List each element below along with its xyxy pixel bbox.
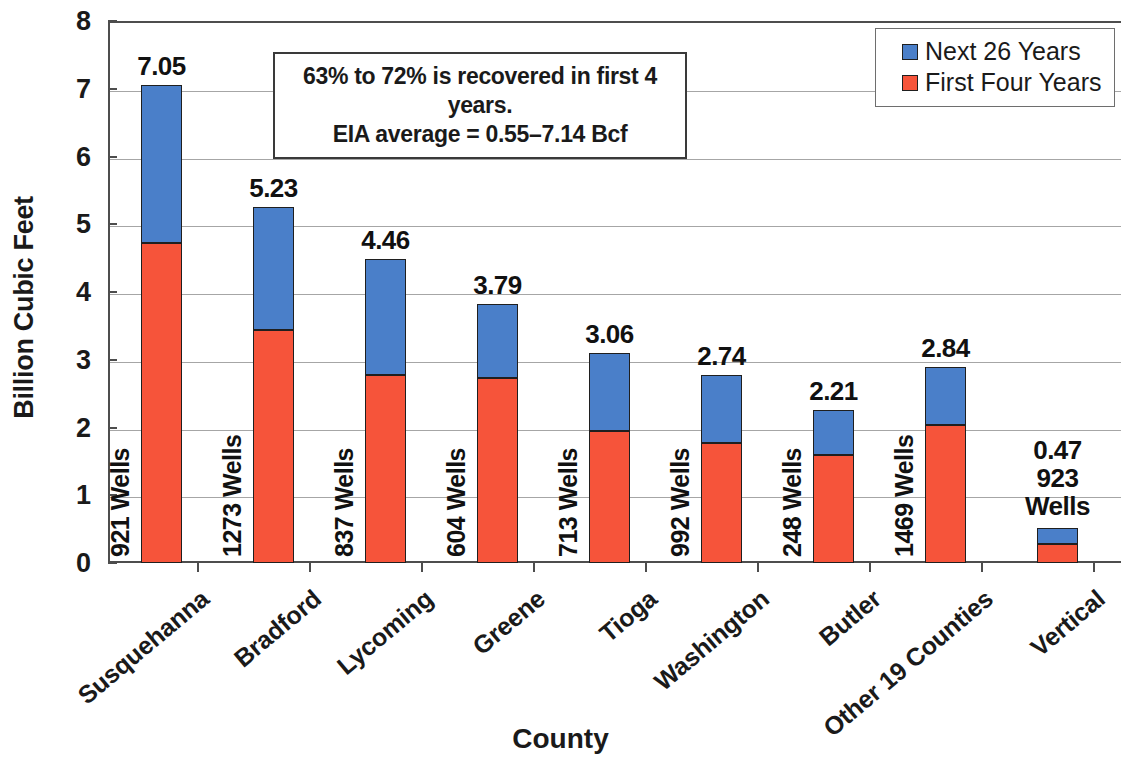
bar-total-value: 2.84 — [876, 335, 1016, 361]
bar-susquehanna[interactable] — [141, 85, 182, 563]
x-axis-title: County — [0, 723, 1121, 755]
y-axis-tick-mark — [108, 291, 117, 293]
bar-bradford[interactable] — [253, 207, 294, 563]
bar-value-label: 7.05 — [92, 53, 232, 79]
bar-well-count-line-1: 923 — [988, 464, 1121, 492]
legend-item-next-26-years: Next 26 Years — [876, 36, 1114, 67]
x-axis-tick-mark — [533, 563, 535, 572]
y-axis-tick-label: 1 — [31, 482, 91, 509]
x-axis-tick-mark — [981, 563, 983, 572]
bar-segment-next-26-years[interactable] — [253, 207, 294, 330]
bar-segment-first-four-years[interactable] — [589, 431, 630, 563]
bar-total-value: 5.23 — [204, 175, 344, 201]
x-axis-tick-mark — [1093, 563, 1095, 572]
bar-value-label: 4.46 — [316, 227, 456, 253]
bar-lycoming[interactable] — [365, 259, 406, 563]
bar-segment-first-four-years[interactable] — [253, 330, 294, 563]
bar-segment-first-four-years[interactable] — [477, 378, 518, 563]
bar-tioga[interactable] — [589, 353, 630, 563]
bar-value-label: 3.79 — [428, 272, 568, 298]
bar-segment-next-26-years[interactable] — [141, 85, 182, 243]
bar-value-label: 0.47923Wells — [988, 436, 1121, 520]
bar-segment-next-26-years[interactable] — [813, 410, 854, 455]
bar-segment-first-four-years[interactable] — [141, 243, 182, 563]
y-axis-tick-label: 5 — [31, 211, 91, 238]
bar-value-label: 2.84 — [876, 335, 1016, 361]
x-axis-tick-mark — [197, 563, 199, 572]
bar-butler[interactable] — [813, 410, 854, 563]
bar-total-value: 4.46 — [316, 227, 456, 253]
bar-total-value: 2.21 — [764, 378, 904, 404]
y-axis-tick-label: 2 — [31, 414, 91, 441]
bar-vertical[interactable] — [1037, 528, 1078, 563]
annotation-box: 63% to 72% is recovered in first 4 years… — [273, 52, 687, 159]
bar-value-label: 5.23 — [204, 175, 344, 201]
bar-segment-next-26-years[interactable] — [365, 259, 406, 374]
bar-segment-next-26-years[interactable] — [589, 353, 630, 431]
y-axis-tick-label: 7 — [31, 75, 91, 102]
x-axis-tick-mark — [421, 563, 423, 572]
bar-segment-first-four-years[interactable] — [925, 425, 966, 563]
x-axis-tick-mark — [309, 563, 311, 572]
bar-value-label: 2.74 — [652, 343, 792, 369]
y-axis-tick-mark — [108, 427, 117, 429]
bar-value-label: 2.21 — [764, 378, 904, 404]
y-axis-tick-mark — [108, 562, 117, 564]
bar-total-value: 0.47 — [988, 436, 1121, 464]
y-axis-tick-mark — [108, 88, 117, 90]
legend-label-next-26-years: Next 26 Years — [925, 39, 1081, 64]
bar-total-value: 3.79 — [428, 272, 568, 298]
y-axis-tick-label: 3 — [31, 346, 91, 373]
bar-segment-first-four-years[interactable] — [365, 375, 406, 563]
legend-swatch-next-26-years — [902, 44, 918, 60]
x-axis-tick-mark — [869, 563, 871, 572]
y-axis-tick-mark — [108, 494, 117, 496]
y-axis-tick-label: 8 — [31, 8, 91, 35]
bar-greene[interactable] — [477, 304, 518, 563]
legend-label-first-four-years: First Four Years — [925, 70, 1101, 95]
y-axis-tick-label: 6 — [31, 143, 91, 170]
y-axis-tick-label: 0 — [31, 550, 91, 577]
bar-well-count-line-2: Wells — [988, 492, 1121, 520]
y-axis-tick-mark — [108, 359, 117, 361]
annotation-line-1: 63% to 72% is recovered in first 4 years… — [281, 62, 679, 120]
y-axis-tick-mark — [108, 223, 117, 225]
y-axis-tick-mark — [108, 20, 117, 22]
y-axis-tick-label: 4 — [31, 279, 91, 306]
bar-segment-next-26-years[interactable] — [1037, 528, 1078, 544]
legend-swatch-first-four-years — [902, 75, 918, 91]
legend-item-first-four-years: First Four Years — [876, 67, 1114, 98]
bar-segment-next-26-years[interactable] — [701, 375, 742, 443]
chart-legend: Next 26 Years First Four Years — [875, 28, 1115, 107]
bar-segment-next-26-years[interactable] — [925, 367, 966, 426]
bar-segment-first-four-years[interactable] — [1037, 544, 1078, 563]
bar-segment-first-four-years[interactable] — [701, 443, 742, 563]
bar-washington[interactable] — [701, 375, 742, 563]
y-axis-tick-mark — [108, 156, 117, 158]
bar-total-value: 7.05 — [92, 53, 232, 79]
bar-segment-next-26-years[interactable] — [477, 304, 518, 378]
annotation-line-2: EIA average = 0.55–7.14 Bcf — [281, 120, 679, 149]
bar-total-value: 2.74 — [652, 343, 792, 369]
bar-segment-first-four-years[interactable] — [813, 455, 854, 563]
bar-other-19-counties[interactable] — [925, 367, 966, 563]
x-axis-tick-mark — [757, 563, 759, 572]
x-axis-tick-mark — [645, 563, 647, 572]
